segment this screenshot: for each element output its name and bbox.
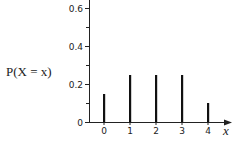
y-tick-label: 0.4 xyxy=(69,42,84,52)
y-tick-label: 0 xyxy=(77,118,83,128)
bar-0 xyxy=(103,94,105,123)
y-ticks xyxy=(85,9,89,123)
chart: 0.6 0.4 0.2 0 P(X = x) 0 1 2 3 4 x xyxy=(0,0,247,144)
y-axis-label: P(X = x) xyxy=(6,64,52,79)
y-tick-label: 0.6 xyxy=(69,4,84,14)
x-tick-label: 1 xyxy=(127,126,133,136)
x-axis-label: x xyxy=(222,123,229,138)
x-tick-label: 3 xyxy=(179,126,185,136)
bar-3 xyxy=(181,75,183,123)
bar-2 xyxy=(155,75,157,123)
x-tick-label: 2 xyxy=(153,126,159,136)
bar-4 xyxy=(207,103,209,123)
x-tick-label: 4 xyxy=(205,126,211,136)
bars xyxy=(103,75,209,123)
x-tick-label: 0 xyxy=(101,126,107,136)
bar-1 xyxy=(129,75,131,123)
y-tick-label: 0.2 xyxy=(69,80,83,90)
